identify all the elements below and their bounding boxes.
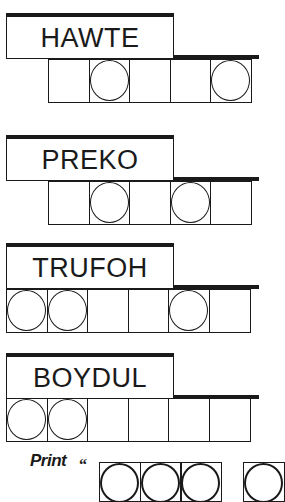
letter-tile-circled[interactable] [47, 398, 89, 442]
letter-tile[interactable] [87, 398, 129, 442]
scrambled-word-box: BOYDUL [6, 353, 174, 399]
circle-marker-icon [141, 463, 180, 502]
answer-group-2 [243, 462, 285, 502]
answer-group-1 [99, 462, 222, 502]
final-letter-tile[interactable] [180, 462, 222, 502]
letter-tile[interactable] [209, 398, 251, 442]
print-label: Print [30, 451, 66, 471]
circle-marker-icon [48, 399, 87, 440]
jumble-puzzle-4: BOYDUL [0, 0, 276, 445]
final-letter-tile[interactable] [140, 462, 182, 502]
letter-tile-circled[interactable] [6, 398, 48, 442]
answer-tiles [6, 398, 251, 442]
scrambled-word: BOYDUL [33, 365, 147, 392]
final-answer-row: Print “ [0, 446, 276, 474]
circle-marker-icon [244, 463, 283, 502]
final-letter-tile[interactable] [243, 462, 285, 502]
letter-tile[interactable] [168, 398, 210, 442]
open-quote: “ [79, 456, 87, 474]
final-letter-tile[interactable] [99, 462, 141, 502]
circle-marker-icon [7, 399, 46, 440]
circle-marker-icon [181, 463, 220, 502]
letter-tile[interactable] [128, 398, 170, 442]
circle-marker-icon [100, 463, 139, 502]
